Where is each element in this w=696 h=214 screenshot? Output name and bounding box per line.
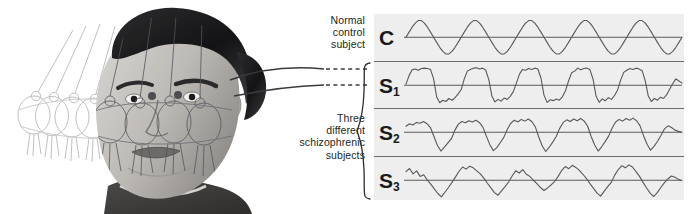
eye-tracking-figure: Normal control subject Three different s… [0,0,696,214]
trace-plot-c [404,14,684,61]
waveform-s2 [406,118,682,151]
grouping-brace [356,62,372,200]
pendulum-marker-left [148,92,156,100]
trace-label-s1-sub: 1 [393,84,400,98]
pendulum-ghost-2 [36,26,87,159]
normal-control-label: Normal control subject [245,14,365,51]
trace-label-s2: S2 [379,122,400,143]
trace-label-c: C [379,27,394,48]
trace-plot-s1 [404,62,684,109]
schizophrenic-subjects-label: Three different schizophrenic subjects [245,112,365,161]
trace-plot-s2 [404,109,684,156]
pendulum-marker-right [174,91,182,99]
trace-row-s1: S1 [374,61,684,109]
pendulum-ghost-1 [18,30,73,156]
eye-tracking-trace-panel: C S1 S2 S3 [374,14,684,200]
trace-row-s3: S3 [374,156,684,204]
trace-row-c: C [374,14,684,61]
trace-row-s2: S2 [374,108,684,156]
trace-label-c-text: C [379,26,394,49]
trace-label-s3-text: S [379,168,393,191]
trace-label-s1-text: S [379,73,393,96]
trace-label-s3-sub: 3 [393,179,400,193]
trace-label-s3: S3 [379,169,400,190]
trace-label-s2-text: S [379,121,393,144]
trace-plot-s3 [404,157,684,204]
trace-label-s2-sub: 2 [393,132,400,146]
trace-label-s1: S1 [379,74,400,95]
waveform-s3 [406,164,682,196]
